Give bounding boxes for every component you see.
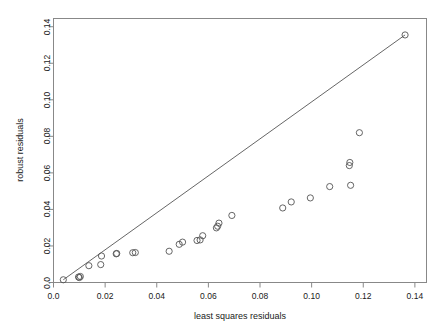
data-point — [327, 183, 333, 189]
y-tick-label: 0.12 — [43, 55, 52, 72]
reference-line-segment — [63, 35, 405, 280]
data-point — [307, 195, 313, 201]
y-tick-label: 0.04 — [43, 201, 52, 218]
data-point — [98, 261, 104, 267]
x-tick-label: 0.06 — [200, 292, 217, 301]
data-point — [98, 253, 104, 259]
y-tick-label: 0.08 — [43, 128, 52, 145]
y-axis-title: robust residuals — [16, 118, 25, 182]
y-tick-label: 0.14 — [43, 18, 52, 35]
y-tick-label: 0.0 — [43, 277, 52, 289]
plot-border-box — [54, 19, 427, 283]
plot-frame — [54, 19, 427, 283]
y-tick-label: 0.02 — [43, 238, 52, 255]
data-point — [86, 263, 92, 269]
x-tick-label: 0.10 — [303, 292, 320, 301]
data-point — [288, 199, 294, 205]
reference-line — [63, 35, 405, 280]
x-tick-label: 0.04 — [148, 292, 165, 301]
scatter-plot-figure: 0.00.020.040.060.080.100.120.14 0.00.020… — [0, 0, 443, 329]
x-tick-label: 0.12 — [355, 292, 372, 301]
plot-canvas — [0, 0, 443, 329]
data-point — [280, 205, 286, 211]
y-tick-label: 0.06 — [43, 165, 52, 182]
x-tick-label: 0.0 — [48, 292, 60, 301]
x-tick-label: 0.14 — [407, 292, 424, 301]
x-tick-label: 0.08 — [252, 292, 269, 301]
data-point — [166, 248, 172, 254]
x-tick-label: 0.02 — [97, 292, 114, 301]
data-point — [348, 182, 354, 188]
data-point — [356, 130, 362, 136]
data-point — [229, 212, 235, 218]
y-tick-label: 0.10 — [43, 92, 52, 109]
x-axis-title: least squares residuals — [194, 312, 286, 321]
x-axis-ticks — [54, 283, 415, 288]
